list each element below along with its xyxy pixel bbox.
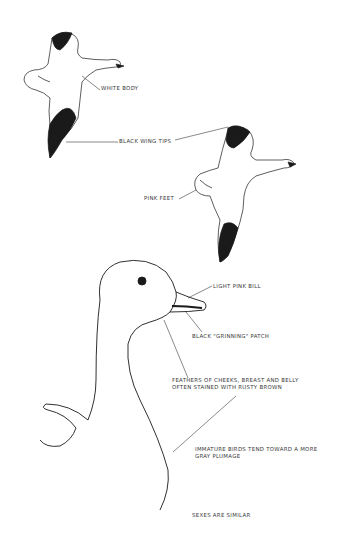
diagram-stage: WHITE BODY BLACK WING TIPS PINK FEET LIG… xyxy=(0,0,343,559)
label-pink-feet: PINK FEET xyxy=(144,195,174,202)
label-immature-line2: GRAY PLUMAGE xyxy=(195,453,317,460)
label-white-body: WHITE BODY xyxy=(101,85,138,92)
flying-goose-1 xyxy=(24,32,124,158)
label-feathers: FEATHERS OF CHEEKS, BREAST AND BELLY OFT… xyxy=(172,377,299,391)
label-black-wing-tips: BLACK WING TIPS xyxy=(119,138,171,145)
goose-illustration xyxy=(0,0,343,559)
label-feathers-line1: FEATHERS OF CHEEKS, BREAST AND BELLY xyxy=(172,377,299,384)
leader-lines xyxy=(66,76,236,452)
flying-goose-2 xyxy=(195,126,296,262)
label-immature: IMMATURE BIRDS TEND TOWARD A MORE GRAY P… xyxy=(195,446,317,460)
label-feathers-line2: OFTEN STAINED WITH RUSTY BROWN xyxy=(172,384,299,391)
label-light-pink-bill: LIGHT PINK BILL xyxy=(213,283,261,290)
label-grinning-patch: BLACK "GRINNING" PATCH xyxy=(192,333,269,340)
label-immature-line1: IMMATURE BIRDS TEND TOWARD A MORE xyxy=(195,446,317,453)
label-sexes-similar: SEXES ARE SIMILAR xyxy=(192,512,251,519)
